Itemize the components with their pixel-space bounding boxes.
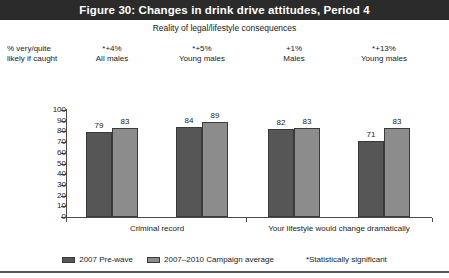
figure-subtitle: Reality of legal/lifestyle consequences (0, 23, 449, 33)
y-tick-label: 60 (42, 148, 66, 157)
y-tick-label: 10 (42, 201, 66, 210)
bar-value-label: 84 (185, 116, 194, 125)
y-tick-label: 80 (42, 126, 66, 135)
bar-value-label: 83 (121, 117, 130, 126)
x-axis-line (66, 217, 432, 218)
bar-value-label: 83 (393, 117, 402, 126)
y-tick-label: 70 (42, 137, 66, 146)
chart-legend: 2007 Pre-wave 2007–2010 Campaign average… (0, 255, 449, 264)
page-title: Figure 30: Changes in drink drive attitu… (79, 4, 369, 16)
y-tick-label: 20 (42, 191, 66, 200)
group-audience-label: Young males (179, 54, 225, 64)
bar-prewave (176, 127, 202, 217)
group-change-label: *+13% (361, 44, 407, 54)
figure-container: Figure 30: Changes in drink drive attitu… (0, 0, 449, 278)
bar-campaign (384, 128, 410, 217)
bar-campaign (294, 128, 320, 217)
bottom-divider (0, 271, 449, 273)
bar-value-label: 83 (303, 117, 312, 126)
y-axis-caption: % very/quite likely if caught (7, 44, 69, 64)
bar-campaign (202, 122, 228, 217)
group-annotation: *+13%Young males (361, 44, 407, 64)
plot-area: 7983848982837183 (66, 110, 432, 217)
group-annotation: *+5%Young males (179, 44, 225, 64)
group-audience-label: Young males (361, 54, 407, 64)
bar-campaign (112, 128, 138, 217)
x-category-label: Criminal record (130, 224, 184, 233)
group-annotation: *+4%All males (96, 44, 128, 64)
legend-swatch-prewave (62, 257, 75, 263)
x-tick (432, 218, 433, 222)
bar-value-label: 89 (211, 111, 220, 120)
y-tick-label: 50 (42, 159, 66, 168)
figure-title-bar: Figure 30: Changes in drink drive attitu… (0, 0, 449, 20)
legend-item-campaign: 2007–2010 Campaign average (147, 255, 274, 264)
group-audience-label: All males (96, 54, 128, 64)
x-category-label: Your lifestyle would change dramatically (268, 224, 410, 233)
legend-item-prewave: 2007 Pre-wave (62, 255, 133, 264)
group-audience-label: Males (283, 54, 304, 64)
y-tick-label: 40 (42, 169, 66, 178)
bar-value-label: 82 (277, 118, 286, 127)
significance-note: *Statistically significant (306, 255, 387, 264)
y-tick-label: 0 (42, 212, 66, 221)
group-change-label: +1% (283, 44, 304, 54)
group-change-label: *+5% (179, 44, 225, 54)
group-change-label: *+4% (96, 44, 128, 54)
y-tick-label: 90 (42, 116, 66, 125)
y-tick-label: 100 (42, 105, 66, 114)
legend-label-prewave: 2007 Pre-wave (79, 255, 133, 264)
legend-swatch-campaign (147, 257, 160, 263)
legend-label-campaign: 2007–2010 Campaign average (164, 255, 274, 264)
bar-value-label: 79 (95, 121, 104, 130)
group-annotation: +1%Males (283, 44, 304, 64)
bar-prewave (86, 132, 112, 217)
bar-prewave (268, 129, 294, 217)
bar-prewave (358, 141, 384, 217)
bar-value-label: 71 (367, 130, 376, 139)
x-tick (246, 218, 247, 222)
y-tick-label: 30 (42, 180, 66, 189)
x-tick (66, 218, 67, 222)
